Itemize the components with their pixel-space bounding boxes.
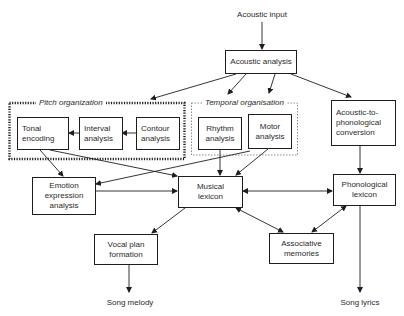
diagram-canvas: Acoustic input Acoustic analysis Pitch o… (0, 0, 404, 316)
pitch-organization-title: Pitch organization (36, 98, 106, 108)
temporal-organisation-title: Temporal organisation (202, 98, 287, 108)
phonological-lexicon-node: Phonological lexicon (333, 174, 396, 206)
contour-analysis-node: Contour analysis (136, 117, 180, 150)
tonal-encoding-text: Tonal encoding (22, 124, 54, 144)
edge-analysis-to-pitch (151, 74, 236, 99)
acoustic-input-label: Acoustic input (226, 10, 298, 20)
emotion-expression-node: Emotion expression analysis (32, 177, 96, 215)
edge-phonological-associative (312, 206, 346, 232)
associative-memories-text: Associative memories (281, 239, 321, 259)
edge-musical-associative (236, 208, 283, 232)
edge-analysis-to-motor (269, 74, 275, 93)
edge-analysis-to-conversion (291, 74, 351, 97)
acoustic-analysis-text: Acoustic analysis (230, 57, 291, 67)
acoustic-to-phonological-text: Acoustic-to- phonological conversion (336, 108, 381, 138)
phonological-lexicon-text: Phonological lexicon (342, 180, 388, 200)
edge-tonal-to-musical (50, 150, 177, 176)
musical-lexicon-text: Musical lexicon (197, 182, 224, 202)
interval-analysis-text: Interval analysis (84, 124, 113, 144)
song-lyrics-label: Song lyrics (332, 298, 388, 308)
emotion-expression-text: Emotion expression analysis (45, 181, 84, 211)
tonal-encoding-node: Tonal encoding (17, 117, 69, 150)
acoustic-to-phonological-node: Acoustic-to- phonological conversion (331, 100, 396, 146)
edge-analysis-to-rhythm (228, 74, 246, 94)
acoustic-analysis-node: Acoustic analysis (225, 50, 297, 74)
diagram-connectors (0, 0, 404, 316)
edge-musical-to-vocal (152, 208, 185, 233)
vocal-plan-text: Vocal plan formation (108, 240, 145, 260)
vocal-plan-node: Vocal plan formation (94, 234, 158, 265)
motor-analysis-node: Motor analysis (248, 114, 292, 149)
rhythm-analysis-text: Rhythm analysis (206, 124, 235, 144)
rhythm-analysis-node: Rhythm analysis (198, 117, 242, 150)
associative-memories-node: Associative memories (269, 233, 334, 264)
musical-lexicon-node: Musical lexicon (178, 176, 243, 208)
song-melody-label: Song melody (100, 298, 160, 308)
edge-tonal-to-emotion (40, 150, 63, 176)
motor-analysis-text: Motor analysis (256, 122, 285, 142)
contour-analysis-text: Contour analysis (141, 124, 170, 144)
interval-analysis-node: Interval analysis (79, 117, 123, 150)
